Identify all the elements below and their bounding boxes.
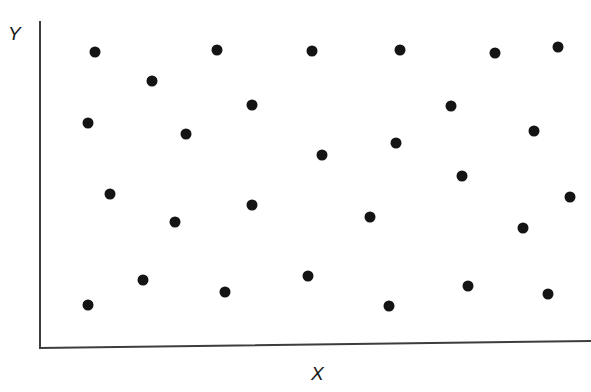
data-point (220, 287, 231, 298)
x-axis-label: X (311, 364, 324, 383)
data-point (457, 171, 468, 182)
data-point (395, 45, 406, 56)
x-axis-line (40, 341, 591, 348)
y-axis-label: Y (8, 24, 21, 43)
data-point (391, 138, 402, 149)
data-point (83, 300, 94, 311)
data-point (365, 212, 376, 223)
data-points-group (83, 42, 576, 312)
data-point (446, 101, 457, 112)
data-point (247, 200, 258, 211)
data-point (303, 271, 314, 282)
axes-group (40, 22, 591, 348)
data-point (317, 150, 328, 161)
data-point (170, 217, 181, 228)
data-point (307, 46, 318, 57)
data-point (147, 76, 158, 87)
plot-canvas (0, 0, 591, 392)
data-point (543, 289, 554, 300)
data-point (463, 281, 474, 292)
data-point (212, 45, 223, 56)
data-point (553, 42, 564, 53)
data-point (83, 118, 94, 129)
data-point (138, 275, 149, 286)
data-point (105, 189, 116, 200)
data-point (565, 192, 576, 203)
data-point (181, 129, 192, 140)
data-point (384, 301, 395, 312)
data-point (490, 48, 501, 59)
data-point (90, 47, 101, 58)
scatter-plot-figure: Y X (0, 0, 591, 392)
data-point (518, 223, 529, 234)
data-point (529, 126, 540, 137)
data-point (247, 100, 258, 111)
